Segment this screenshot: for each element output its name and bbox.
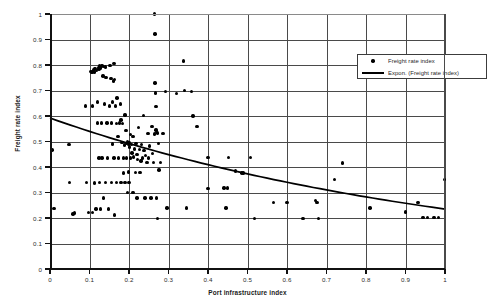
x-axis-tick-label: 0.8 xyxy=(354,276,378,283)
data-point xyxy=(107,207,110,210)
x-axis-tick-label: 0.1 xyxy=(78,276,102,283)
data-point xyxy=(234,169,237,172)
gridline-horizontal xyxy=(50,167,445,168)
y-axis-tick-label: 0.7 xyxy=(20,87,42,94)
data-point xyxy=(432,216,435,219)
legend-item-trendline: Expon. (Freight rate index) xyxy=(358,67,488,79)
data-point xyxy=(112,156,115,159)
x-axis-tick xyxy=(326,269,327,274)
data-point xyxy=(161,132,164,135)
gridline-horizontal xyxy=(50,91,445,92)
data-point xyxy=(96,121,99,124)
data-point xyxy=(156,131,159,134)
data-point xyxy=(154,91,157,94)
data-point xyxy=(122,171,125,174)
data-point xyxy=(116,135,119,138)
data-point xyxy=(165,206,168,209)
data-point xyxy=(100,121,103,124)
x-axis-tick-label: 0.2 xyxy=(117,276,141,283)
data-point xyxy=(148,144,151,147)
data-point xyxy=(368,206,371,209)
data-point xyxy=(115,181,118,184)
data-point xyxy=(317,217,320,220)
data-point xyxy=(104,65,107,68)
gridline-horizontal xyxy=(50,193,445,194)
data-point xyxy=(113,213,116,216)
data-point xyxy=(119,181,122,184)
data-point xyxy=(153,81,156,84)
data-point xyxy=(127,170,130,173)
data-point xyxy=(111,100,114,103)
x-axis-tick-label: 0.4 xyxy=(196,276,220,283)
data-point xyxy=(141,156,144,159)
data-point xyxy=(102,196,105,199)
data-point xyxy=(125,156,128,159)
data-point xyxy=(104,181,107,184)
y-axis-tick-label: 0.8 xyxy=(20,62,42,69)
y-axis-tick xyxy=(45,115,50,116)
data-point xyxy=(191,114,194,117)
data-point xyxy=(104,76,107,79)
x-axis-tick xyxy=(207,269,208,274)
x-axis-label: Port infrastructure index xyxy=(50,289,445,296)
data-point xyxy=(253,217,256,220)
y-axis-tick-label: 0.3 xyxy=(20,189,42,196)
data-point xyxy=(404,210,407,213)
data-point xyxy=(156,217,159,220)
data-point xyxy=(84,104,87,107)
data-point xyxy=(190,90,193,93)
y-axis-tick-label: 0.9 xyxy=(20,36,42,43)
y-axis-tick-label: 0.6 xyxy=(20,113,42,120)
data-point xyxy=(272,201,275,204)
y-axis-tick xyxy=(45,13,50,14)
data-point xyxy=(94,207,97,210)
data-point xyxy=(131,135,134,138)
data-point xyxy=(185,206,188,209)
data-point xyxy=(182,59,185,62)
data-point xyxy=(99,207,102,210)
data-point xyxy=(150,125,153,128)
data-point xyxy=(135,196,138,199)
x-axis-tick xyxy=(49,269,50,274)
data-point xyxy=(123,181,126,184)
y-axis-tick xyxy=(45,243,50,244)
y-axis-tick-label: 0.1 xyxy=(20,240,42,247)
data-point xyxy=(91,104,94,107)
data-point xyxy=(52,207,55,210)
data-point xyxy=(108,104,111,107)
data-point xyxy=(145,161,148,164)
data-point xyxy=(195,125,198,128)
data-point xyxy=(164,90,167,93)
data-point xyxy=(152,161,155,164)
data-point xyxy=(143,196,146,199)
data-point xyxy=(96,100,99,103)
x-axis-tick xyxy=(247,269,248,274)
data-point xyxy=(155,196,158,199)
data-point xyxy=(142,149,145,152)
x-axis-tick-label: 0.6 xyxy=(275,276,299,283)
data-point xyxy=(117,156,120,159)
data-point xyxy=(157,142,160,145)
data-point xyxy=(242,171,245,174)
data-point xyxy=(416,201,419,204)
data-point xyxy=(110,181,113,184)
data-point xyxy=(421,216,424,219)
data-point xyxy=(98,181,101,184)
data-point xyxy=(249,156,252,159)
data-point xyxy=(146,132,149,135)
data-point xyxy=(105,121,108,124)
chart-legend: Freight rate index Expon. (Freight rate … xyxy=(357,54,487,79)
data-point xyxy=(134,171,137,174)
data-point xyxy=(149,196,152,199)
y-axis-tick xyxy=(45,39,50,40)
y-axis-tick xyxy=(45,90,50,91)
data-point xyxy=(130,143,133,146)
data-point xyxy=(67,143,70,146)
y-axis-tick-label: 0.4 xyxy=(20,164,42,171)
data-point xyxy=(131,191,134,194)
data-point xyxy=(100,156,103,159)
data-point xyxy=(85,181,88,184)
data-point xyxy=(333,178,336,181)
data-point xyxy=(137,126,140,129)
